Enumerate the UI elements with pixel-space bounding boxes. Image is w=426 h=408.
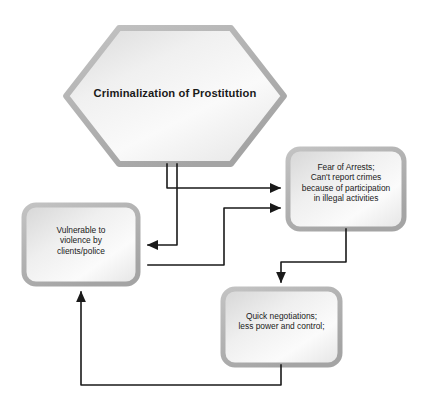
node-quick-negotiations[interactable] bbox=[223, 289, 340, 365]
edge-criminalization-to-fear bbox=[167, 164, 280, 188]
edge-criminalization-to-vulnerable bbox=[148, 164, 177, 245]
diagram-svg bbox=[0, 0, 426, 408]
quick-negotiations-box-shape bbox=[223, 289, 340, 365]
edge-fear-to-quick-negotiations bbox=[281, 229, 346, 282]
node-vulnerable-to-violence[interactable] bbox=[24, 205, 138, 284]
edge-vulnerable-to-fear bbox=[148, 208, 280, 265]
node-criminalization[interactable] bbox=[66, 28, 284, 164]
hexagon-shape bbox=[66, 28, 284, 164]
diagram-canvas: Criminalization of Prostitution Fear of … bbox=[0, 0, 426, 408]
fear-box-shape bbox=[288, 149, 404, 229]
node-fear-of-arrests[interactable] bbox=[288, 149, 404, 229]
vulnerable-box-shape bbox=[24, 205, 138, 284]
